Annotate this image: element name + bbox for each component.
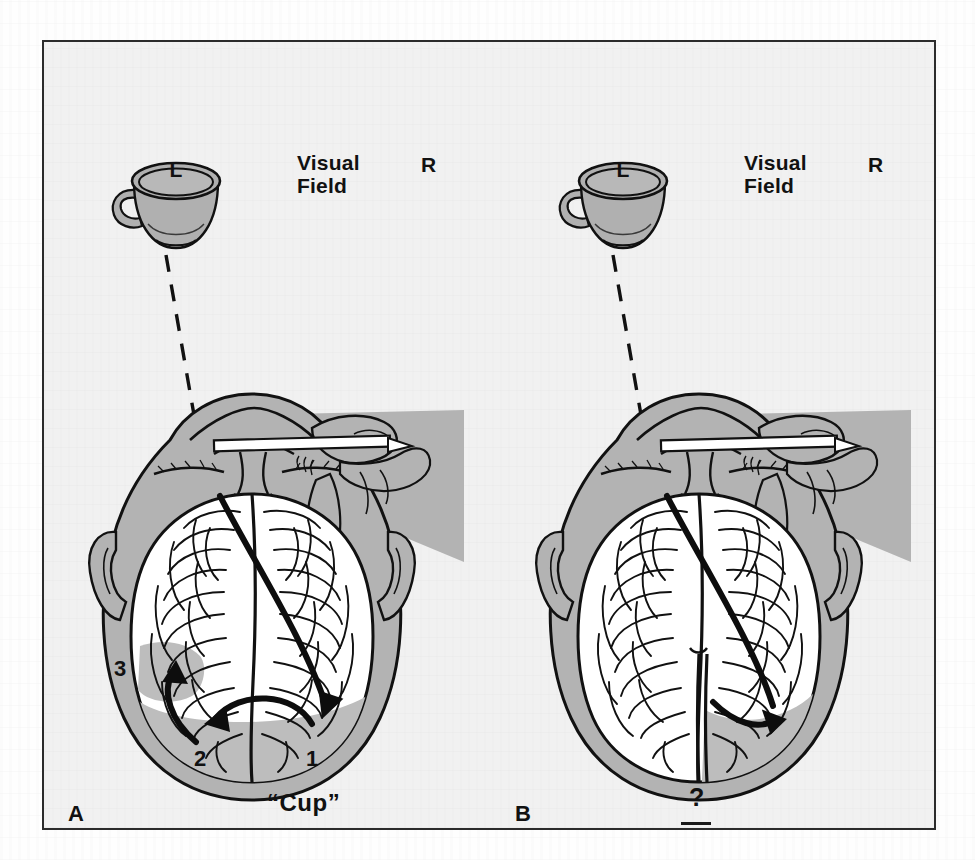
cup-graphic-b bbox=[560, 163, 667, 248]
spoken-response-a: “Cup” bbox=[267, 790, 340, 816]
cup-l-letter-a: L bbox=[170, 158, 183, 181]
head-group-b bbox=[536, 394, 911, 802]
head-group-a: 3 2 1 bbox=[89, 394, 464, 802]
visual-field-right-label-b: R bbox=[868, 154, 883, 177]
figure-page: L bbox=[0, 0, 975, 860]
panel-b: L bbox=[491, 42, 936, 830]
pathway-number-3-a: 3 bbox=[114, 656, 126, 681]
unknown-response-b: ? bbox=[689, 784, 704, 811]
panel-a: L bbox=[44, 42, 491, 830]
figure-frame: L bbox=[42, 40, 936, 830]
midline-right-b bbox=[706, 654, 708, 782]
pathway-number-2-a: 2 bbox=[194, 746, 206, 771]
visual-field-title-b: VisualField bbox=[744, 152, 807, 197]
visual-field-title-a: VisualField bbox=[297, 152, 360, 197]
panel-letter-a: A bbox=[68, 802, 84, 826]
visual-field-right-label-a: R bbox=[421, 154, 436, 177]
unknown-response-underline-b bbox=[681, 822, 711, 825]
pathway-number-1-a: 1 bbox=[306, 746, 318, 771]
panel-letter-b: B bbox=[515, 802, 531, 826]
cup-graphic-a bbox=[113, 163, 220, 248]
cup-l-letter-b: L bbox=[617, 158, 630, 181]
